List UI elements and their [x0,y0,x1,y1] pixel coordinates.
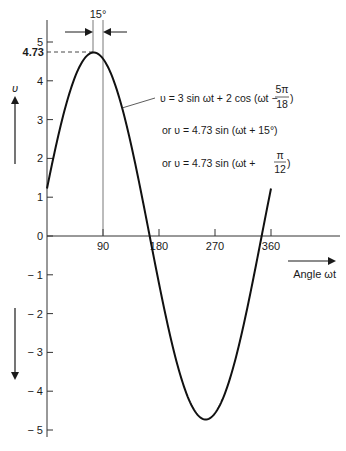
equation-line-1: υ = 3 sin ωt + 2 cos (ωt − [160,92,278,104]
x-tick-label: 270 [206,240,224,252]
equation-leader-line [122,98,155,108]
y-tick-label: 2 [37,152,43,164]
y-tick-label: − 5 [27,424,43,436]
x-axis-ticks: 90180270360 [97,229,280,252]
y-tick-label: 3 [37,114,43,126]
y-tick-label: 1 [37,191,43,203]
y-axis-ticks: 543210− 1− 2− 3− 4− 5 [27,36,53,436]
peak-value-label: 4.73 [23,46,44,58]
equation-block: υ = 3 sin ωt + 2 cos (ωt − 5π 18 ) or υ … [160,83,294,175]
y-tick-label: − 4 [27,385,43,397]
y-tick-label: 4 [37,75,43,87]
sine-wave-chart: 543210− 1− 2− 3− 4− 5 90180270360 4.73 1… [0,0,346,451]
equation-line-2: or υ = 4.73 sin (ωt + 15°) [162,124,278,136]
equation-line-1-frac-num: 5π [275,83,288,95]
y-tick-label: − 1 [27,269,43,281]
x-tick-label: 90 [97,240,109,252]
equation-line-1-close: ) [290,92,294,104]
x-tick-label: 360 [262,240,280,252]
y-tick-label: − 3 [27,346,43,358]
equation-line-3-close: ) [287,157,291,169]
y-tick-label: 0 [37,230,43,242]
x-axis-label: Angle ωt [293,268,336,280]
equation-line-1-frac-den: 18 [276,98,288,110]
equation-line-3-frac-num: π [276,149,283,161]
y-tick-label: − 2 [27,308,43,320]
equation-line-3-frac-den: 12 [274,163,286,175]
equation-line-3: or υ = 4.73 sin (ωt + [162,157,255,169]
positive-direction-label: υ [12,82,18,94]
phase-shift-label: 15° [90,8,107,20]
